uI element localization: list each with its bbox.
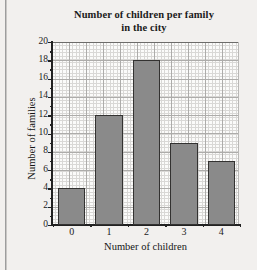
x-tick-label-3: 3 [172, 226, 196, 237]
x-tick-mark-minor-1 [90, 224, 91, 227]
x-axis-tick-labels: 01234 [52, 226, 239, 242]
x-tick-mark-minor-5 [240, 224, 241, 227]
chart-title-line-1: Number of children per family [74, 9, 214, 20]
y-tick-mark-6 [48, 170, 52, 171]
y-tick-mark-10 [48, 134, 52, 135]
chart-title: Number of children per family in the cit… [46, 9, 242, 34]
y-axis-title-wrap: Number of families [18, 45, 32, 225]
bar-0 [58, 188, 86, 225]
y-tick-mark-minor-7 [50, 161, 53, 162]
y-tick-mark-minor-9 [50, 143, 53, 144]
x-axis-title: Number of children [52, 241, 239, 252]
y-tick-mark-minor-3 [50, 198, 53, 199]
y-axis-title: Number of families [26, 64, 37, 214]
y-tick-mark-8 [48, 152, 52, 153]
y-tick-mark-2 [48, 207, 52, 208]
bar-series [52, 42, 239, 225]
y-tick-mark-minor-19 [50, 51, 53, 52]
y-tick-mark-minor-15 [50, 88, 53, 89]
y-tick-mark-12 [48, 115, 52, 116]
y-tick-mark-minor-11 [50, 124, 53, 125]
y-tick-label-20: 20 [26, 36, 48, 46]
x-tick-mark-minor-0 [53, 224, 54, 227]
y-tick-mark-minor-17 [50, 69, 53, 70]
chart-title-line-2: in the city [46, 22, 242, 35]
y-tick-mark-4 [48, 188, 52, 189]
y-tick-mark-minor-1 [50, 216, 53, 217]
y-tick-mark-minor-13 [50, 106, 53, 107]
y-tick-mark-minor-5 [50, 179, 53, 180]
bar-chart: Number of children per family in the cit… [0, 0, 257, 270]
x-tick-label-2: 2 [135, 226, 159, 237]
x-tick-label-4: 4 [209, 226, 233, 237]
x-tick-label-0: 0 [60, 226, 84, 237]
y-tick-mark-20 [48, 42, 52, 43]
bar-1 [95, 115, 123, 225]
bar-2 [133, 60, 161, 225]
y-tick-mark-14 [48, 97, 52, 98]
bar-3 [170, 143, 198, 225]
y-tick-mark-18 [48, 60, 52, 61]
x-tick-mark-minor-2 [128, 224, 129, 227]
y-tick-mark-16 [48, 79, 52, 80]
x-tick-mark-minor-4 [203, 224, 204, 227]
x-tick-mark-minor-3 [165, 224, 166, 227]
bar-4 [208, 161, 236, 225]
x-tick-label-1: 1 [97, 226, 121, 237]
